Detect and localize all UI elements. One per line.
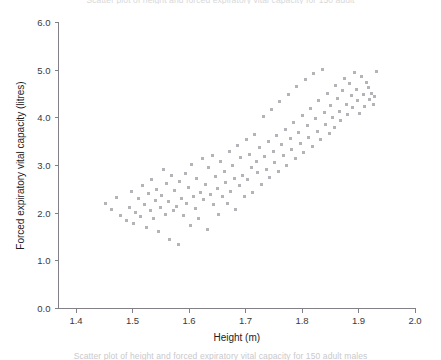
data-point bbox=[233, 177, 236, 180]
data-point bbox=[110, 208, 113, 211]
data-point bbox=[248, 153, 251, 156]
data-point bbox=[190, 163, 193, 166]
caption-bottom-clipped: Scatter plot of height and forced expira… bbox=[0, 351, 441, 360]
data-point bbox=[185, 202, 188, 205]
data-point bbox=[348, 82, 351, 85]
x-tick-label: 1.5 bbox=[126, 315, 139, 326]
data-point bbox=[312, 72, 315, 75]
x-tick-label: 2.0 bbox=[408, 315, 421, 326]
data-point bbox=[172, 209, 175, 212]
data-point bbox=[238, 184, 241, 187]
data-point bbox=[345, 103, 348, 106]
data-point bbox=[273, 161, 276, 164]
data-point bbox=[165, 182, 168, 185]
data-point bbox=[290, 148, 293, 151]
data-point bbox=[289, 137, 292, 140]
data-point bbox=[301, 114, 304, 117]
data-point bbox=[317, 99, 320, 102]
data-point bbox=[373, 95, 376, 98]
data-point bbox=[272, 150, 275, 153]
data-point bbox=[155, 188, 158, 191]
data-point bbox=[178, 180, 181, 183]
data-point bbox=[245, 138, 248, 141]
data-point bbox=[177, 243, 180, 246]
data-point bbox=[173, 189, 176, 192]
data-point bbox=[292, 121, 295, 124]
data-point bbox=[141, 184, 144, 187]
data-point bbox=[329, 104, 332, 107]
data-point bbox=[363, 105, 366, 108]
data-point bbox=[139, 215, 142, 218]
data-point bbox=[119, 214, 122, 217]
data-point bbox=[280, 143, 283, 146]
data-point bbox=[287, 93, 290, 96]
data-point bbox=[265, 168, 268, 171]
data-point bbox=[255, 160, 258, 163]
data-point bbox=[189, 224, 192, 227]
data-point bbox=[212, 203, 215, 206]
data-point bbox=[368, 98, 371, 101]
y-tick-label: 0.0 bbox=[37, 303, 50, 314]
data-point bbox=[207, 166, 210, 169]
data-point bbox=[333, 126, 336, 129]
data-point bbox=[187, 186, 190, 189]
data-point bbox=[231, 164, 234, 167]
y-tick-label: 2.0 bbox=[37, 208, 50, 219]
data-point bbox=[152, 217, 155, 220]
data-point bbox=[236, 144, 239, 147]
data-point bbox=[162, 168, 165, 171]
x-tick-label: 1.7 bbox=[239, 315, 252, 326]
y-axis-title: Forced expiratory vital capacity (litres… bbox=[15, 81, 26, 249]
data-point bbox=[285, 164, 288, 167]
data-point bbox=[331, 116, 334, 119]
data-points-group bbox=[104, 68, 378, 246]
scatter-plot: 0.01.02.03.04.05.06.01.41.51.61.71.81.92… bbox=[0, 0, 441, 360]
data-point bbox=[157, 230, 160, 233]
data-point bbox=[180, 197, 183, 200]
data-point bbox=[234, 208, 237, 211]
data-point bbox=[192, 195, 195, 198]
data-point bbox=[253, 133, 256, 136]
data-point bbox=[239, 156, 242, 159]
data-point bbox=[149, 209, 152, 212]
data-point bbox=[362, 93, 365, 96]
data-point bbox=[319, 138, 322, 141]
y-tick-label: 4.0 bbox=[37, 112, 50, 123]
data-point bbox=[326, 92, 329, 95]
y-tick-label: 3.0 bbox=[37, 160, 50, 171]
data-point bbox=[370, 92, 373, 95]
data-point bbox=[246, 178, 249, 181]
data-point bbox=[182, 214, 185, 217]
data-point bbox=[338, 110, 341, 113]
data-point bbox=[316, 130, 319, 133]
data-point bbox=[309, 107, 312, 110]
data-point bbox=[217, 213, 220, 216]
data-point bbox=[209, 193, 212, 196]
data-point bbox=[228, 150, 231, 153]
data-point bbox=[250, 166, 253, 169]
data-point bbox=[360, 75, 363, 78]
data-point bbox=[311, 145, 314, 148]
axes-group bbox=[55, 22, 416, 313]
data-point bbox=[341, 89, 344, 92]
data-point bbox=[260, 183, 263, 186]
data-point bbox=[104, 202, 107, 205]
data-point bbox=[353, 71, 356, 74]
data-point bbox=[304, 78, 307, 81]
data-point bbox=[132, 222, 135, 225]
data-point bbox=[324, 123, 327, 126]
data-point bbox=[256, 171, 259, 174]
data-point bbox=[194, 207, 197, 210]
data-point bbox=[195, 177, 198, 180]
data-point bbox=[184, 172, 187, 175]
data-point bbox=[147, 192, 150, 195]
data-point bbox=[297, 131, 300, 134]
data-point bbox=[302, 151, 305, 154]
data-point bbox=[294, 157, 297, 160]
data-point bbox=[150, 178, 153, 181]
data-point bbox=[355, 88, 358, 91]
x-tick-label: 1.8 bbox=[295, 315, 308, 326]
data-point bbox=[365, 81, 368, 84]
data-point bbox=[307, 136, 310, 139]
x-tick-label: 1.4 bbox=[69, 315, 82, 326]
